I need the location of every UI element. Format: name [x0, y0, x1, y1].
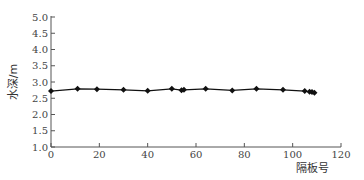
data-point-diamond-marker — [203, 86, 209, 92]
x-tick-label: 20 — [93, 149, 106, 160]
x-tick-label: 80 — [238, 149, 251, 160]
y-tick-label: 4.5 — [32, 28, 48, 39]
data-point-diamond-marker — [121, 87, 127, 93]
y-tick-label: 2.5 — [32, 93, 48, 104]
y-tick-label: 5.0 — [32, 12, 48, 23]
y-tick-label: 1.5 — [32, 125, 48, 136]
x-axis: 020406080100120 — [48, 143, 351, 160]
x-tick-label: 60 — [190, 149, 203, 160]
x-tick-label: 120 — [331, 149, 350, 160]
x-axis-label: 隔板号 — [296, 161, 329, 175]
data-series — [48, 86, 317, 96]
data-point-diamond-marker — [169, 86, 175, 92]
data-point-diamond-marker — [75, 86, 81, 92]
data-point-diamond-marker — [229, 87, 235, 93]
data-point-diamond-marker — [145, 88, 151, 94]
y-tick-label: 2.0 — [32, 109, 48, 120]
x-tick-label: 40 — [141, 149, 154, 160]
y-tick-label: 3.5 — [32, 60, 48, 71]
y-axis: 1.01.52.02.53.03.54.04.55.0 — [32, 12, 55, 153]
y-tick-label: 1.0 — [32, 142, 48, 153]
data-point-diamond-marker — [94, 86, 100, 92]
x-tick-label: 100 — [283, 149, 302, 160]
y-tick-label: 3.0 — [32, 77, 48, 88]
data-point-diamond-marker — [280, 87, 286, 93]
data-point-diamond-marker — [48, 88, 54, 94]
line-chart: 1.01.52.02.53.03.54.04.55.0 020406080100… — [0, 0, 364, 180]
data-point-diamond-marker — [302, 88, 308, 94]
data-point-diamond-marker — [253, 86, 259, 92]
y-tick-label: 4.0 — [32, 44, 48, 55]
x-tick-label: 0 — [48, 149, 54, 160]
y-axis-label: 水深/m — [7, 64, 20, 100]
